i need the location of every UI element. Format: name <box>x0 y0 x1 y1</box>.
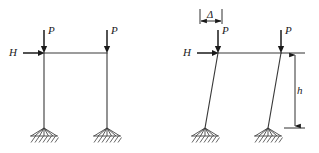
left-frame-load-p-right-label: P <box>110 24 118 36</box>
right-frame-group: Δ P P H <box>182 9 305 143</box>
left-frame-load-h <box>23 50 45 56</box>
left-frame-group: P P H <box>8 24 122 143</box>
left-frame-support-left <box>30 128 59 143</box>
right-frame-load-p-left <box>215 30 221 53</box>
structural-diagram-figure: P P H <box>0 0 319 153</box>
left-frame-load-p-left <box>41 30 47 53</box>
right-frame-load-p-right-label: P <box>284 24 292 36</box>
diagram-canvas: P P H <box>0 0 319 153</box>
sway-delta-label: Δ <box>206 9 213 20</box>
right-frame-load-p-left-label: P <box>221 24 229 36</box>
right-frame-left-column <box>205 53 218 128</box>
right-frame-load-p-right <box>278 30 284 53</box>
right-frame-support-left <box>191 128 220 143</box>
left-frame-load-h-label: H <box>8 46 18 58</box>
right-frame-right-column <box>268 53 281 128</box>
left-frame-load-p-right <box>104 30 110 53</box>
left-frame-support-right <box>93 128 122 143</box>
right-frame-load-h-label: H <box>182 46 192 58</box>
right-frame-support-right <box>254 128 283 143</box>
right-frame-load-h <box>197 50 219 56</box>
height-h-label: h <box>297 84 303 96</box>
left-frame-load-p-left-label: P <box>47 24 55 36</box>
